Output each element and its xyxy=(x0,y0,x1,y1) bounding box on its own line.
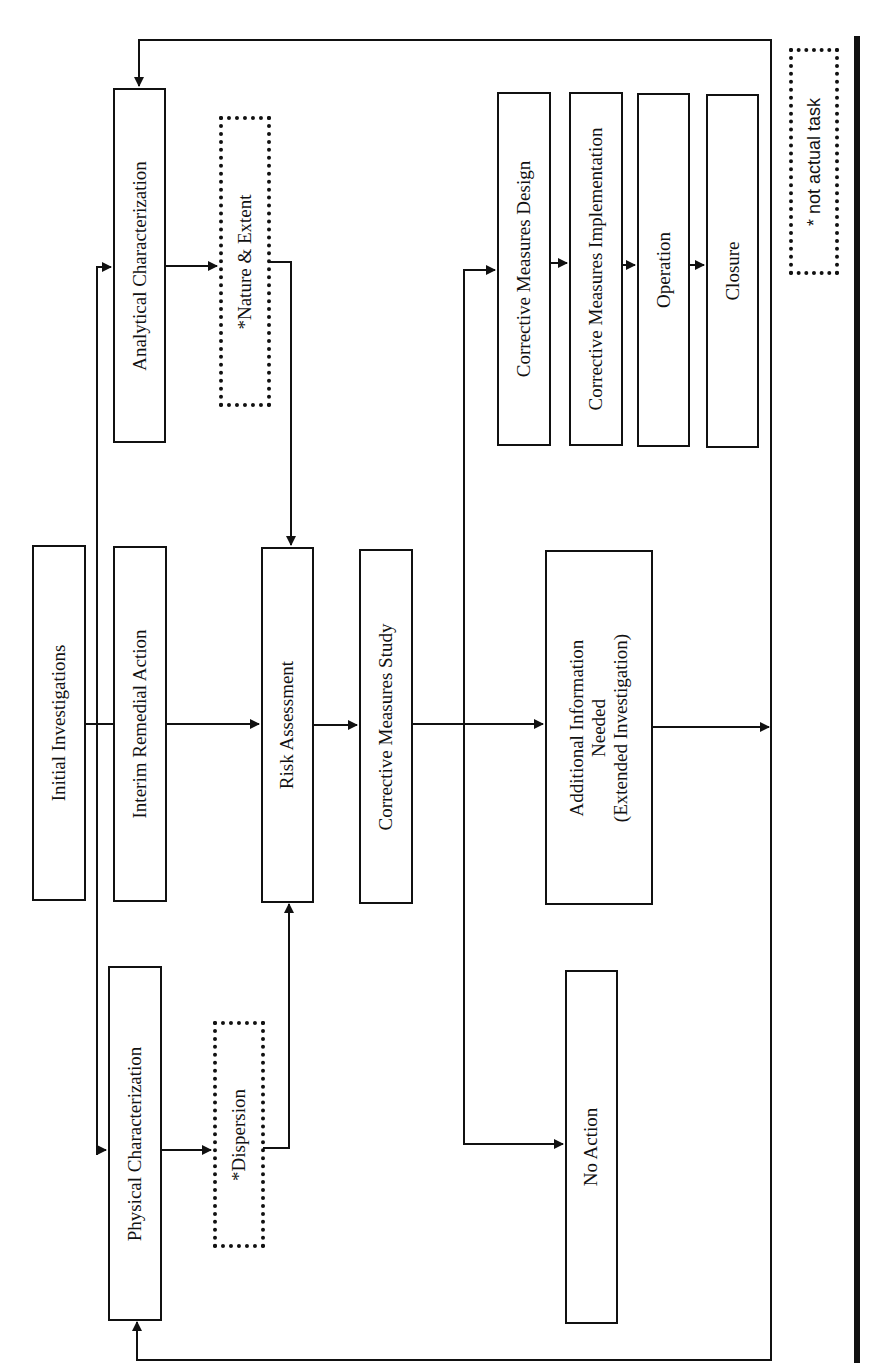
node-no-action: No Action xyxy=(565,970,618,1324)
node-label: Analytical Characterization xyxy=(129,161,151,370)
label-line-1: Additional Information xyxy=(566,633,588,821)
node-initial-investigations: Initial Investigations xyxy=(32,545,86,901)
node-label: Initial Investigations xyxy=(48,645,70,802)
label-line-2: Needed xyxy=(588,633,610,821)
node-label: Physical Characterization xyxy=(124,1046,146,1241)
node-corrective-measures-implementation: Corrective Measures Implementation xyxy=(569,92,623,446)
node-label: No Action xyxy=(581,1108,603,1187)
page-edge-bar xyxy=(854,36,860,1363)
flowchart-diagram: Initial Investigations Analytical Charac… xyxy=(0,0,876,1363)
edge-cms-to-design xyxy=(464,270,495,724)
node-corrective-measures-design: Corrective Measures Design xyxy=(497,92,551,446)
node-label: Operation xyxy=(653,232,675,308)
node-corrective-measures-study: Corrective Measures Study xyxy=(359,549,413,904)
node-label: *Dispersion xyxy=(228,1089,250,1181)
node-label: Closure xyxy=(722,241,744,300)
node-label: Risk Assessment xyxy=(277,661,299,789)
edge-nature-to-risk xyxy=(268,262,291,545)
node-physical-characterization: Physical Characterization xyxy=(108,966,162,1321)
node-label: Interim Remedial Action xyxy=(129,630,151,819)
edge-dispersion-to-risk xyxy=(263,904,289,1148)
node-label: Corrective Measures Implementation xyxy=(585,128,607,411)
edge-initial-to-physical xyxy=(97,724,106,1150)
legend-not-actual-task: * not actual task xyxy=(789,48,839,275)
node-nature-extent: *Nature & Extent xyxy=(219,116,271,407)
node-label: *Nature & Extent xyxy=(234,194,256,329)
node-analytical-characterization: Analytical Characterization xyxy=(113,88,166,443)
node-label: Additional Information Needed (Extended … xyxy=(566,633,632,821)
node-dispersion: *Dispersion xyxy=(213,1021,265,1248)
node-additional-information-needed: Additional Information Needed (Extended … xyxy=(545,550,653,905)
node-operation: Operation xyxy=(637,93,690,447)
node-risk-assessment: Risk Assessment xyxy=(261,547,314,903)
label-line-3: (Extended Investigation) xyxy=(610,633,632,821)
legend-label: * not actual task xyxy=(803,97,825,225)
node-label: Corrective Measures Design xyxy=(513,161,535,377)
node-interim-remedial-action: Interim Remedial Action xyxy=(113,546,167,902)
node-label: Corrective Measures Study xyxy=(375,623,397,830)
node-closure: Closure xyxy=(706,94,759,448)
